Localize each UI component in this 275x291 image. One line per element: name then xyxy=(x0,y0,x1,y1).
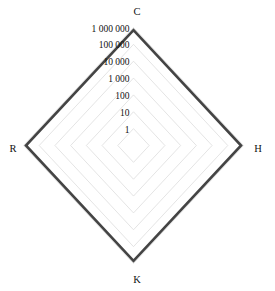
grid-ring xyxy=(86,95,180,196)
grid-ring xyxy=(71,78,197,213)
tick-label: 1 000 xyxy=(108,74,130,84)
axis-label-k: K xyxy=(133,274,141,285)
tick-label: 1 xyxy=(125,125,130,135)
tick-label: 10 000 xyxy=(103,57,129,67)
data-polygon xyxy=(26,30,241,261)
radar-chart-canvas: 1 000 000100 00010 0001 000100101 C H K … xyxy=(0,0,275,291)
data-series-group xyxy=(26,30,241,261)
tick-labels-group: 1 000 000100 00010 0001 000100101 xyxy=(92,24,130,135)
tick-label: 100 000 xyxy=(99,40,130,50)
axis-label-c: C xyxy=(133,6,140,17)
tick-label: 1 000 000 xyxy=(92,24,130,34)
tick-label: 100 xyxy=(115,91,130,101)
grid-rings-group xyxy=(24,28,244,264)
grid-ring xyxy=(118,129,149,163)
axis-labels-group: C H K R xyxy=(9,6,262,285)
axis-label-r: R xyxy=(9,143,16,154)
axis-label-h: H xyxy=(254,143,262,154)
grid-ring xyxy=(39,44,228,246)
grid-ring xyxy=(102,112,165,179)
grid-ring xyxy=(24,28,244,264)
radar-chart: 1 000 000100 00010 0001 000100101 C H K … xyxy=(0,0,275,291)
tick-label: 10 xyxy=(120,108,130,118)
